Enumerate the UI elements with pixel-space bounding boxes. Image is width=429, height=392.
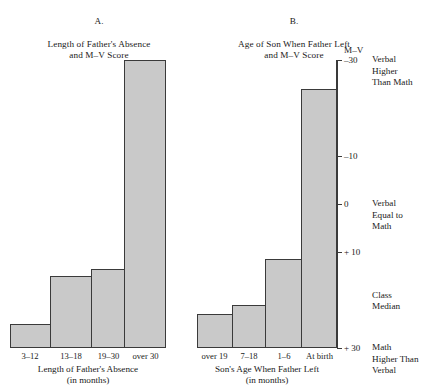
bar (197, 314, 233, 348)
category-label: over 19 (197, 351, 232, 361)
bar (265, 259, 302, 348)
bar (124, 60, 166, 348)
axis-annotation: Verbal Equal to Math (372, 198, 403, 232)
axis-tick: –10 (337, 151, 358, 161)
panel-a-plot: 3–1213–1819–30over 30 Length of Father's… (10, 60, 166, 348)
panel-b-title-letter: B. (196, 16, 392, 27)
axis-tick: 0 (337, 199, 349, 209)
bar (232, 305, 267, 348)
axis-tick: –30 (337, 55, 358, 65)
category-label: 13–18 (50, 351, 92, 361)
panel-a-bars (10, 60, 166, 348)
category-label: 7–18 (232, 351, 266, 361)
panel-b-title-text: Age of Son When Father Left and M–V Scor… (238, 39, 350, 60)
axis-annotation: Math Higher Than Verbal (372, 342, 419, 376)
panel-a-title-text: Length of Father's Absence and M–V Score (48, 39, 151, 60)
panel-b-axis-caption: Son's Age When Father Left (in months) (191, 364, 343, 387)
axis-tick: + 30 (337, 343, 360, 353)
category-label: over 30 (125, 351, 166, 361)
category-label: At birth (302, 351, 337, 361)
axis-annotation: Verbal Higher Than Math (372, 54, 413, 88)
bar (50, 276, 93, 348)
category-label: 19–30 (92, 351, 125, 361)
panel-b-bars (197, 60, 337, 348)
axis-tick: + 10 (337, 247, 360, 257)
category-label: 3–12 (10, 351, 50, 361)
figure: A. Length of Father's Absence and M–V Sc… (0, 0, 429, 392)
bar (91, 269, 125, 348)
panel-a-title: A. Length of Father's Absence and M–V Sc… (6, 5, 192, 61)
value-axis-header: M–V (344, 45, 363, 55)
panel-a-category-labels: 3–1213–1819–30over 30 (10, 349, 166, 361)
panel-a-axis-caption: Length of Father's Absence (in months) (4, 364, 172, 387)
category-label: 1–6 (266, 351, 302, 361)
axis-annotation: Class Median (372, 290, 400, 313)
panel-a-title-letter: A. (6, 16, 192, 27)
panel-b-category-labels: over 197–181–6At birth (197, 349, 337, 361)
bar (301, 89, 337, 348)
bar (10, 324, 51, 348)
panel-b-plot: over 197–181–6At birth Son's Age When Fa… (197, 60, 337, 348)
